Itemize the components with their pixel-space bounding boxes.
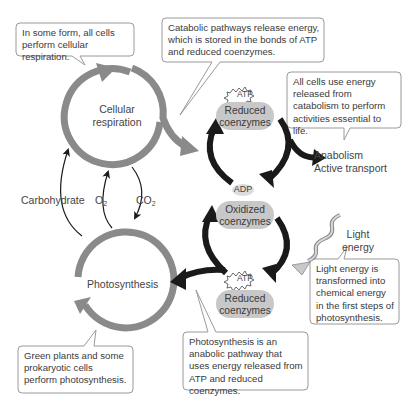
active-transport-label: Active transport (314, 162, 387, 175)
callout-catabolic: Catabolic pathways release energy, which… (162, 18, 326, 63)
photosynthesis-label: Photosynthesis (87, 278, 158, 291)
oxidized-coenzymes: Oxidized coenzymes (216, 201, 274, 229)
co2-label: CO2 (136, 194, 156, 211)
light-line2: energy (338, 241, 378, 254)
light-line1: Light (338, 228, 378, 241)
oxidized-line1: Oxidized (216, 204, 274, 216)
reduced-bottom-line2: coenzymes (216, 305, 274, 317)
atp-top-label: ATP (230, 89, 260, 99)
cellular-respiration-line1: Cellular (82, 103, 152, 116)
reduced-bottom-line1: Reduced (216, 293, 274, 305)
callout-photosynthesis-anabolic: Photosynthesis is an anabolic pathway th… (183, 332, 309, 401)
callout-all-cells: All cells use energy released from catab… (287, 72, 401, 141)
reduced-top-line2: coenzymes (216, 117, 274, 129)
cellular-respiration-line2: respiration (82, 116, 152, 129)
adp-label: ADP (232, 184, 254, 194)
reduced-coenzymes-bottom: Reduced coenzymes (216, 290, 274, 318)
energy-cycle-arrows (180, 119, 318, 278)
light-energy-label: Light energy (338, 228, 378, 253)
anabolism-label: Anabolism (314, 149, 387, 162)
co2-subscript: 2 (152, 200, 156, 207)
atp-bottom-label: ATP (230, 273, 260, 283)
reduced-top-line1: Reduced (216, 105, 274, 117)
reduced-coenzymes-top: Reduced coenzymes (216, 102, 274, 130)
oxidized-line2: coenzymes (216, 216, 274, 228)
cellular-respiration-label: Cellular respiration (82, 103, 152, 128)
o2-text: O (95, 194, 103, 206)
co2-text: CO (136, 194, 152, 206)
o2-subscript: 2 (103, 200, 107, 207)
outputs-label: Anabolism Active transport (314, 149, 387, 174)
callout-light-energy: Light energy is transformed into chemica… (310, 259, 400, 328)
o2-label: O2 (95, 194, 107, 211)
callout-green-plants: Green plants and some prokaryotic cells … (18, 346, 134, 391)
carbohydrate-label: Carbohydrate (21, 194, 85, 207)
callout-cellular-respiration: In some form, all cells perform cellular… (16, 23, 134, 68)
